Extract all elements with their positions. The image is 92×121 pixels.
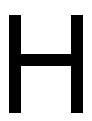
glyph-character: H <box>0 0 1 1</box>
crossbar <box>21 54 71 66</box>
left-stem <box>9 15 21 113</box>
right-stem <box>71 15 83 113</box>
letter-h-glyph: H <box>0 0 92 121</box>
